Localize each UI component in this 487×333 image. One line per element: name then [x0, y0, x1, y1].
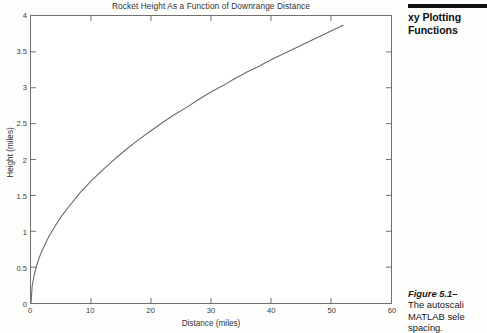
- running-head-line: xy Plotting: [408, 11, 487, 24]
- x-tick-label: 50: [317, 306, 347, 315]
- scanned-page: Rocket Height As a Function of Downrange…: [0, 0, 487, 333]
- x-tick-label: 0: [15, 306, 45, 315]
- page-margin-column: xy Plotting Functions Figure 5.1– The au…: [400, 0, 487, 333]
- y-tick-label: 1: [1, 227, 27, 236]
- figure-caption: Figure 5.1– The autoscali MATLAB sele sp…: [408, 288, 487, 333]
- y-tick-label: 4: [1, 11, 27, 20]
- figure-caption-line: MATLAB sele: [408, 311, 487, 322]
- y-tick-label: 3: [1, 83, 27, 92]
- data-curve: [31, 25, 343, 303]
- y-tick-label: 3.5: [1, 47, 27, 56]
- x-tick-label: 10: [75, 306, 105, 315]
- figure-caption-line: The autoscali: [408, 299, 487, 310]
- running-head-line: Functions: [408, 24, 487, 37]
- x-tick-label: 40: [256, 306, 286, 315]
- figure-caption-lead: Figure 5.1–: [408, 288, 487, 299]
- plot-canvas: [31, 16, 391, 303]
- y-tick-label: 0.5: [1, 263, 27, 272]
- figure-plot: Rocket Height As a Function of Downrange…: [0, 0, 400, 333]
- x-axis-label: Distance (miles): [30, 319, 392, 328]
- x-tick-label: 20: [136, 306, 166, 315]
- x-axis-tick-labels: 0102030405060: [30, 306, 392, 318]
- x-tick-label: 30: [196, 306, 226, 315]
- chart-title: Rocket Height As a Function of Downrange…: [30, 1, 392, 11]
- header-rule: [408, 4, 487, 8]
- plot-axes-box: [30, 15, 392, 304]
- running-head: xy Plotting Functions: [408, 11, 487, 37]
- figure-caption-line: spacing.: [408, 322, 487, 333]
- y-axis-label: Height (miles): [6, 103, 15, 203]
- tick-marks: [31, 16, 391, 303]
